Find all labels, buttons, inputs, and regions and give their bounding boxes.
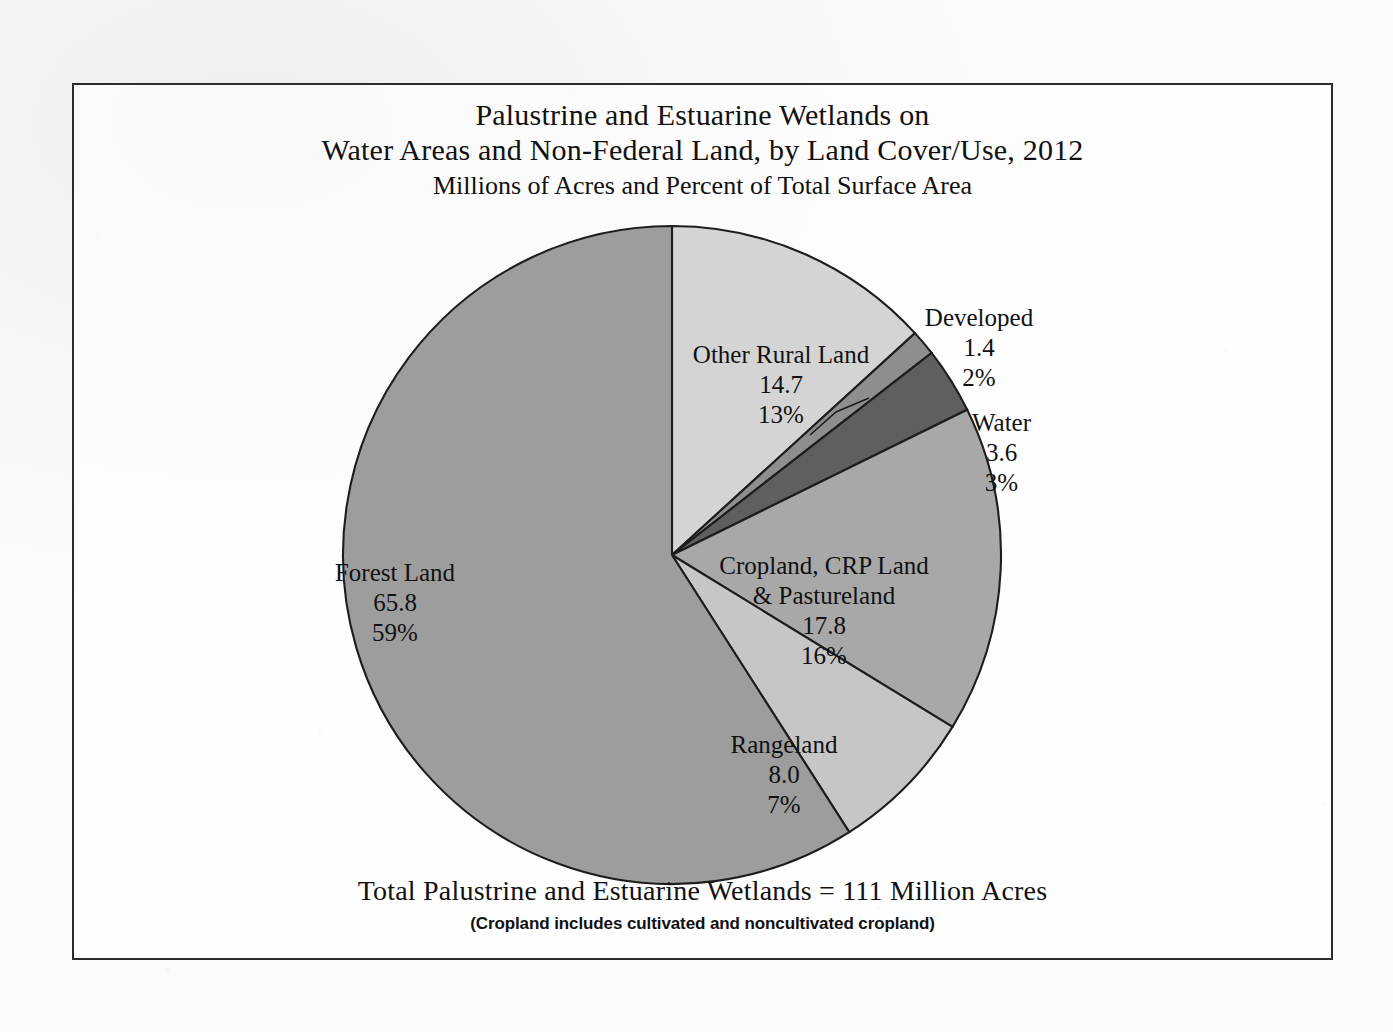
slice-label-developed: Developed 1.4 2% [874,303,1084,393]
slice-label-value: 1.4 [874,333,1084,363]
slice-label-value: 65.8 [270,588,520,618]
slice-label-cropland: Cropland, CRP Land & Pastureland 17.8 16… [664,551,984,671]
slice-label-percent: 13% [651,400,911,430]
slice-label-percent: 7% [664,790,904,820]
chart-footer: Total Palustrine and Estuarine Wetlands … [74,875,1331,934]
slice-label-percent: 3% [914,468,1089,498]
slice-label-name: Water [914,408,1089,438]
slice-label-name-line-2: & Pastureland [664,581,984,611]
slice-label-rangeland: Rangeland 8.0 7% [664,730,904,820]
chart-frame: Palustrine and Estuarine Wetlands on Wat… [72,83,1333,960]
slice-label-water: Water 3.6 3% [914,408,1089,498]
slice-label-value: 17.8 [664,611,984,641]
slice-label-name: Rangeland [664,730,904,760]
chart-footnote: (Cropland includes cultivated and noncul… [74,914,1331,934]
pie-chart [74,85,1335,962]
slice-label-percent: 59% [270,618,520,648]
chart-total-label: Total Palustrine and Estuarine Wetlands … [74,875,1331,907]
slice-label-value: 8.0 [664,760,904,790]
slice-label-percent: 16% [664,641,984,671]
slice-label-name: Other Rural Land [651,340,911,370]
slice-label-name: Forest Land [270,558,520,588]
slice-label-other-rural-land: Other Rural Land 14.7 13% [651,340,911,430]
slice-label-name-line-1: Cropland, CRP Land [664,551,984,581]
slice-label-forest-land: Forest Land 65.8 59% [270,558,520,648]
slice-label-name: Developed [874,303,1084,333]
slice-label-value: 14.7 [651,370,911,400]
slice-label-percent: 2% [874,363,1084,393]
slice-label-value: 3.6 [914,438,1089,468]
